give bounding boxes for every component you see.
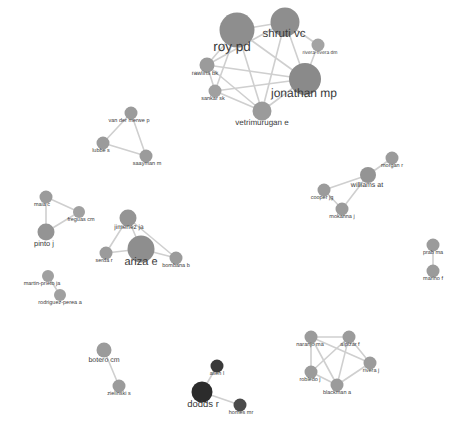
node-label-jimenez-ja: jimenez ja [114, 225, 143, 232]
node-label-mokanna-j: mokanna j [329, 215, 354, 221]
graph-edge [311, 337, 370, 363]
node-label-marino-f: marino f [423, 277, 443, 283]
graph-node-botero-cm[interactable] [97, 343, 112, 358]
node-label-naranjo-ma: naranjo ma [296, 343, 324, 349]
node-label-freguas-cm: freguas cm [67, 218, 94, 224]
graph-node-williams-at[interactable] [360, 167, 376, 183]
node-label-pinto-j: pinto j [34, 240, 54, 248]
node-label-bombana-b: bombana b [162, 264, 190, 270]
network-graph-canvas[interactable]: roy pdshruti vcrivera-rivera dmjonathan … [0, 0, 462, 441]
graph-node-pinto-j[interactable] [38, 224, 55, 241]
node-label-williams-at: williams at [351, 182, 383, 189]
node-label-homes-mr: homes mr [229, 411, 253, 417]
node-label-rawlins-bk: rawlins bk [192, 71, 219, 77]
node-label-van-der-merwe-p: van der merwe p [109, 119, 150, 125]
node-label-rodriguez-perea-a: rodriguez-perea a [38, 301, 81, 307]
node-label-prab-ma: prab ma [423, 251, 443, 257]
node-label-vetrimurugan-e: vetrimurugan e [235, 119, 288, 127]
node-label-allen-l: allen l [210, 372, 224, 378]
node-label-roy-pd: roy pd [213, 40, 251, 54]
node-label-robledo-j: robledo j [299, 378, 320, 384]
node-label-jonathan-mp: jonathan mp [271, 87, 337, 99]
node-label-lubbe-s: lubbe s [92, 149, 110, 155]
node-label-maia-c: maia c [34, 203, 50, 209]
node-label-serda-r: serda r [95, 259, 112, 265]
node-label-rivera-rivera-dm: rivera-rivera dm [302, 51, 337, 56]
node-label-shruti-vc: shruti vc [263, 29, 306, 41]
node-label-sankar-sk: sankar sk [201, 97, 225, 103]
node-label-martin-prieto-ja: martin-prieto ja [24, 282, 61, 288]
node-label-cooper-jg: cooper jg [311, 196, 334, 202]
node-label-alpizar-f: alpizar f [340, 343, 359, 349]
node-label-saayman-m: saayman m [133, 162, 161, 168]
node-label-dodds-r: dodds r [187, 400, 219, 410]
node-label-zielinski-s: zielinski s [107, 392, 131, 398]
node-label-rivera-j: rivera j [363, 369, 380, 375]
node-label-ariza-e: ariza e [124, 257, 157, 268]
node-label-blackman-a: blackman a [323, 391, 351, 397]
node-label-morgan-r: morgan r [381, 164, 403, 170]
node-label-botero-cm: botero cm [88, 357, 119, 364]
